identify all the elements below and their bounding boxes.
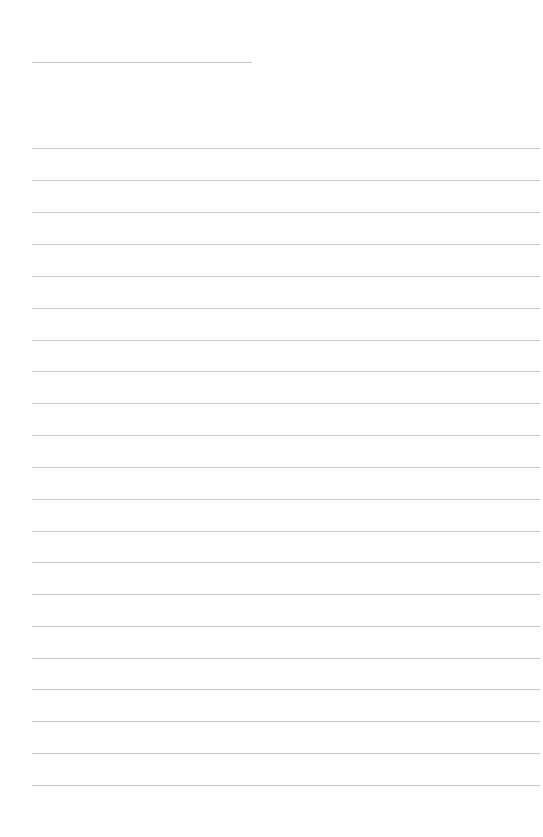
writing-line <box>32 531 540 532</box>
writing-line <box>32 467 540 468</box>
writing-line <box>32 212 540 213</box>
writing-line <box>32 626 540 627</box>
writing-line <box>32 499 540 500</box>
writing-line <box>32 594 540 595</box>
writing-line <box>32 276 540 277</box>
writing-line <box>32 371 540 372</box>
writing-line <box>32 244 540 245</box>
lined-paper-page <box>0 0 543 837</box>
header-title-line <box>32 62 252 63</box>
writing-line <box>32 308 540 309</box>
writing-line <box>32 753 540 754</box>
writing-line <box>32 148 540 149</box>
writing-line <box>32 180 540 181</box>
writing-line <box>32 340 540 341</box>
writing-line <box>32 403 540 404</box>
writing-line <box>32 435 540 436</box>
writing-line <box>32 562 540 563</box>
writing-line <box>32 785 540 786</box>
writing-line <box>32 721 540 722</box>
writing-line <box>32 658 540 659</box>
writing-line <box>32 689 540 690</box>
